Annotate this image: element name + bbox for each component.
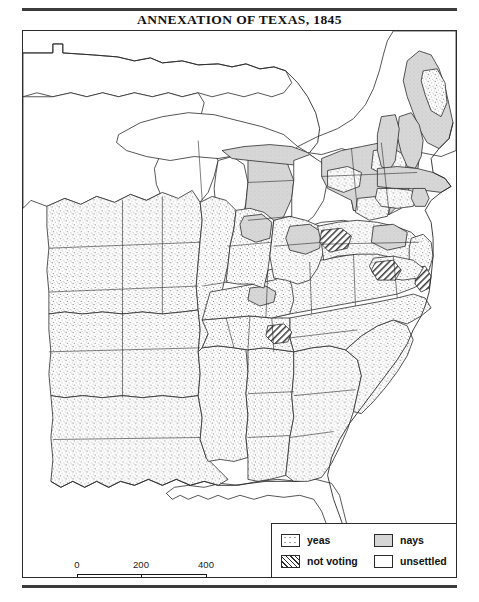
region-georgia [286,346,362,482]
map-legend: yeas nays not voting unsettled (Votes no… [271,523,457,578]
legend-entry-nays: nays [374,531,457,550]
region-rhode-island [411,188,429,206]
legend-entry-not-voting: not voting [281,552,374,571]
title-rule-top [22,8,457,11]
scale-tick-0 [77,574,78,578]
scale-labels: 0 200 400 [75,559,235,572]
page-title: ANNEXATION OF TEXAS, 1845 [0,12,479,28]
legend-entry-unsettled: unsettled [374,552,457,571]
title-rule-bottom [22,585,457,588]
legend-label-unsettled: unsettled [400,556,447,567]
legend-swatch-unsettled [374,555,393,568]
scale-label-200: 200 [133,559,149,570]
map-drawing [23,31,456,577]
legend-note-line-1: (Votes not shown: New Hampshire, 2 yeas; [281,577,457,578]
legend-label-nays: nays [400,535,424,546]
legend-note: (Votes not shown: New Hampshire, 2 yeas;… [281,577,457,578]
region-arkansas [49,310,200,398]
legend-swatch-yeas [281,534,300,547]
scale-label-400: 400 [198,559,214,570]
legend-swatch-not-voting [281,555,300,568]
legend-label-not-voting: not voting [307,556,358,567]
legend-entry-yeas: yeas [281,531,374,550]
legend-entries: yeas nays not voting unsettled [281,531,457,573]
scale-tick-200 [141,574,142,578]
scale-bar-group: 0 200 400 Scale of miles [75,559,235,578]
region-alabama [246,348,294,482]
legend-swatch-nays [374,534,393,547]
scale-bar-line-group [77,574,207,578]
legend-label-yeas: yeas [307,535,330,546]
scale-tick-400 [206,574,207,578]
map-figure: ANNEXATION OF TEXAS, 1845 [0,0,479,602]
region-unorganized-territory [23,44,292,97]
map-panel: yeas nays not voting unsettled (Votes no… [22,30,457,578]
scale-label-0: 0 [74,559,79,570]
region-missouri [47,190,202,314]
region-mississippi [198,346,248,462]
district-ohio-nays [286,224,322,254]
